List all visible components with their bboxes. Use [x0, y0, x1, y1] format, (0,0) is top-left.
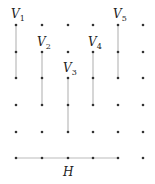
grid-dot	[67, 104, 70, 107]
label-v2: V2	[37, 35, 51, 51]
label-v5: V5	[113, 7, 127, 23]
grid-dot	[92, 104, 95, 107]
segments-layer	[16, 25, 118, 158]
grid-dot	[15, 104, 18, 107]
label-h: H	[62, 165, 74, 179]
grid-dot	[15, 131, 18, 134]
grid-dot	[67, 157, 70, 160]
grid-dot	[117, 24, 120, 27]
grid-dot	[67, 51, 70, 54]
grid-dot	[15, 51, 18, 54]
grid-dot	[67, 77, 70, 80]
grid-dot	[67, 131, 70, 134]
grid-dot	[142, 51, 145, 54]
grid-dot	[92, 24, 95, 27]
grid-dot	[117, 131, 120, 134]
grid-dot	[142, 104, 145, 107]
grid-dot	[15, 24, 18, 27]
grid-dot	[92, 77, 95, 80]
grid-dot	[92, 131, 95, 134]
label-v1: V1	[11, 7, 25, 23]
grid-dot	[41, 157, 44, 160]
grid-dot	[117, 104, 120, 107]
grid-dot	[142, 131, 145, 134]
grid-dot	[41, 77, 44, 80]
grid-dot	[142, 157, 145, 160]
grid-dot	[41, 131, 44, 134]
grid-dot	[15, 77, 18, 80]
grid-dot	[142, 24, 145, 27]
grid-dot	[41, 51, 44, 54]
grid-dot	[41, 24, 44, 27]
label-v4: V4	[88, 35, 102, 51]
labels-layer: V1V2V3V4V5H	[11, 7, 127, 179]
grid-dot	[92, 157, 95, 160]
grid-dot	[142, 77, 145, 80]
grid-dots-layer	[15, 24, 145, 160]
grid-dot	[41, 104, 44, 107]
grid-dot	[117, 51, 120, 54]
grid-dot	[92, 51, 95, 54]
grid-dot	[15, 157, 18, 160]
grid-dot	[117, 157, 120, 160]
grid-diagram: V1V2V3V4V5H	[0, 0, 155, 184]
grid-dot	[67, 24, 70, 27]
grid-dot	[117, 77, 120, 80]
label-v3: V3	[63, 61, 77, 77]
